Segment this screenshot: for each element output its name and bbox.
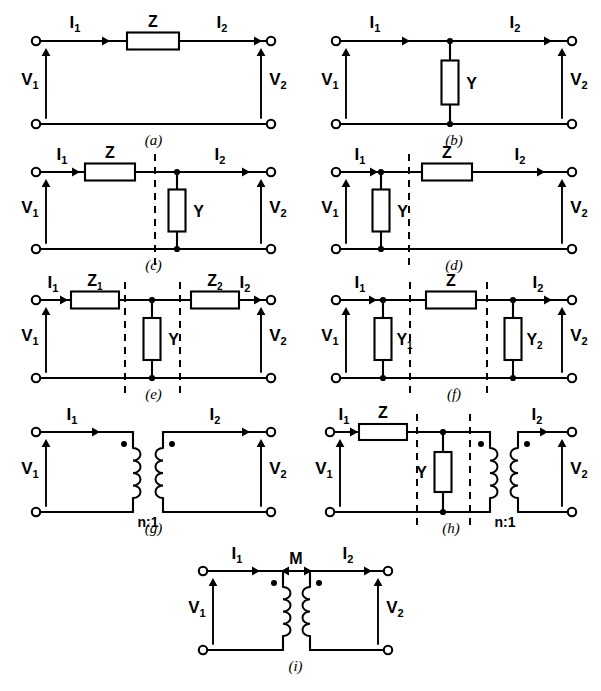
input-terminal-top-b[interactable] xyxy=(332,37,340,45)
shunt-bottom-junction-c-0 xyxy=(174,246,180,252)
series-element-c-0[interactable] xyxy=(85,164,135,181)
shunt-bottom-junction-f-1 xyxy=(510,375,516,381)
input-terminal-top-i[interactable] xyxy=(199,567,207,575)
polarity-dot-secondary-g xyxy=(169,441,175,447)
output-terminal-top-e[interactable] xyxy=(267,296,275,304)
polarity-dot-secondary-i xyxy=(316,580,322,586)
series-element-label-d-0: Z xyxy=(442,144,452,161)
output-terminal-top-b[interactable] xyxy=(568,37,576,45)
panel-caption-g: (g) xyxy=(145,520,163,537)
shunt-top-junction-c-0 xyxy=(174,169,180,175)
shunt-top-junction-h-0 xyxy=(440,429,446,435)
output-terminal-bottom-b[interactable] xyxy=(568,120,576,128)
series-element-e-1[interactable] xyxy=(191,292,239,309)
panel-caption-c: (c) xyxy=(145,257,162,274)
output-terminal-bottom-i[interactable] xyxy=(384,646,392,654)
output-terminal-bottom-d[interactable] xyxy=(568,245,576,253)
series-element-label-h-0: Z xyxy=(378,404,388,421)
polarity-dot-primary-h xyxy=(478,441,484,447)
input-terminal-top-f[interactable] xyxy=(332,296,340,304)
input-terminal-top-e[interactable] xyxy=(32,296,40,304)
output-terminal-top-i[interactable] xyxy=(384,567,392,575)
input-terminal-top-c[interactable] xyxy=(32,168,40,176)
series-element-d-0[interactable] xyxy=(422,164,472,181)
input-terminal-top-a[interactable] xyxy=(32,37,40,45)
series-element-label-c-0: Z xyxy=(105,144,115,161)
shunt-bottom-junction-e-0 xyxy=(149,375,155,381)
shunt-bottom-junction-d-0 xyxy=(378,246,384,252)
turns-ratio-label-h: n:1 xyxy=(495,514,516,530)
shunt-element-label-c-0: Y xyxy=(193,203,204,220)
shunt-element-b-0[interactable] xyxy=(442,61,459,105)
input-terminal-top-g[interactable] xyxy=(32,428,40,436)
series-element-e-0[interactable] xyxy=(71,292,119,309)
output-terminal-top-c[interactable] xyxy=(267,168,275,176)
output-terminal-bottom-f[interactable] xyxy=(568,374,576,382)
output-terminal-bottom-e[interactable] xyxy=(267,374,275,382)
output-terminal-bottom-h[interactable] xyxy=(568,508,576,516)
output-terminal-top-d[interactable] xyxy=(568,168,576,176)
shunt-bottom-junction-h-0 xyxy=(440,509,446,515)
polarity-dot-primary-i xyxy=(271,580,277,586)
output-terminal-top-g[interactable] xyxy=(267,428,275,436)
circuit-figure-sheet: ZV1V2I1I2(a)YV1V2I1I2(b)ZYV1V2I1I2(c)ZYV… xyxy=(0,0,601,691)
panel-caption-a: (a) xyxy=(145,132,163,149)
input-terminal-bottom-f[interactable] xyxy=(332,374,340,382)
input-terminal-bottom-c[interactable] xyxy=(32,245,40,253)
input-terminal-bottom-g[interactable] xyxy=(32,508,40,516)
shunt-element-label-h-0: Y xyxy=(416,464,427,481)
shunt-top-junction-b-0 xyxy=(447,38,453,44)
shunt-top-junction-f-1 xyxy=(510,297,516,303)
shunt-element-f-1[interactable] xyxy=(505,318,522,360)
input-terminal-bottom-i[interactable] xyxy=(199,646,207,654)
series-element-label-f-0: Z xyxy=(446,272,456,289)
shunt-element-f-0[interactable] xyxy=(375,318,392,360)
input-terminal-bottom-h[interactable] xyxy=(326,508,334,516)
output-terminal-top-a[interactable] xyxy=(267,37,275,45)
input-terminal-bottom-d[interactable] xyxy=(332,245,340,253)
shunt-element-label-e-0: Y xyxy=(168,331,179,348)
output-terminal-top-f[interactable] xyxy=(568,296,576,304)
shunt-top-junction-e-0 xyxy=(149,297,155,303)
output-terminal-bottom-g[interactable] xyxy=(267,508,275,516)
shunt-bottom-junction-f-0 xyxy=(380,375,386,381)
output-terminal-bottom-a[interactable] xyxy=(267,120,275,128)
series-element-a-0[interactable] xyxy=(127,33,179,50)
shunt-element-d-0[interactable] xyxy=(373,190,390,232)
input-terminal-top-h[interactable] xyxy=(326,428,334,436)
shunt-element-label-d-0: Y xyxy=(397,203,408,220)
circuit-diagram-canvas: ZV1V2I1I2(a)YV1V2I1I2(b)ZYV1V2I1I2(c)ZYV… xyxy=(0,0,601,691)
shunt-element-label-b-0: Y xyxy=(466,75,477,92)
input-terminal-bottom-e[interactable] xyxy=(32,374,40,382)
panel-caption-h: (h) xyxy=(442,520,460,537)
panel-caption-e: (e) xyxy=(145,386,162,403)
mutual-inductance-label-i: M xyxy=(289,550,302,567)
series-element-label-a-0: Z xyxy=(148,13,158,30)
polarity-dot-secondary-h xyxy=(524,441,530,447)
shunt-element-e-0[interactable] xyxy=(144,318,161,360)
shunt-top-junction-d-0 xyxy=(378,169,384,175)
shunt-top-junction-f-0 xyxy=(380,297,386,303)
input-terminal-bottom-a[interactable] xyxy=(32,120,40,128)
input-terminal-top-d[interactable] xyxy=(332,168,340,176)
input-terminal-bottom-b[interactable] xyxy=(332,120,340,128)
shunt-bottom-junction-b-0 xyxy=(447,121,453,127)
output-terminal-top-h[interactable] xyxy=(568,428,576,436)
shunt-element-c-0[interactable] xyxy=(169,190,186,232)
output-terminal-bottom-c[interactable] xyxy=(267,245,275,253)
series-element-f-0[interactable] xyxy=(426,292,476,309)
polarity-dot-primary-g xyxy=(121,441,127,447)
panel-caption-i: (i) xyxy=(288,658,302,675)
series-element-h-0[interactable] xyxy=(359,424,407,440)
panel-caption-f: (f) xyxy=(447,386,461,403)
shunt-element-h-0[interactable] xyxy=(435,452,452,492)
